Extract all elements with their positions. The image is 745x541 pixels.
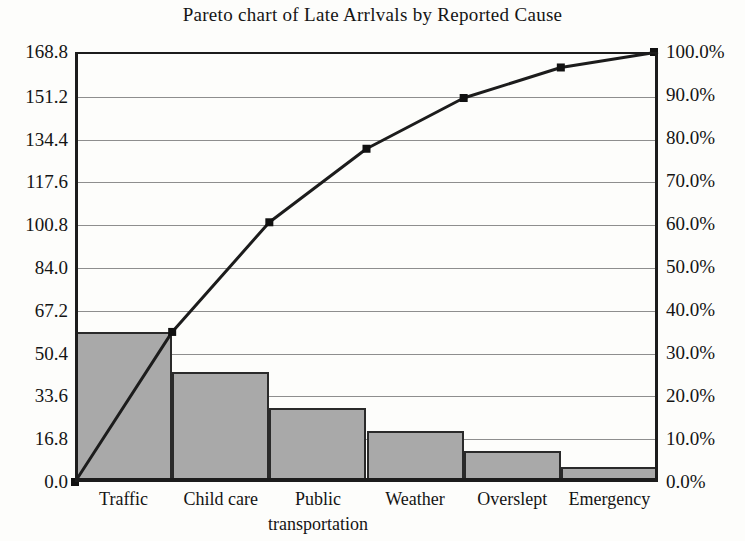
- right-axis-tick-label: 40.0%: [666, 300, 715, 319]
- category-label-line: transportation: [259, 512, 376, 537]
- line-marker: [557, 63, 565, 71]
- right-axis-tick-label: 70.0%: [666, 171, 715, 190]
- right-axis-tick-label: 10.0%: [666, 429, 715, 448]
- right-axis-tick-label: 80.0%: [666, 128, 715, 147]
- left-axis-tick-label: 100.8: [25, 215, 68, 234]
- category-label-line: Traffic: [99, 489, 148, 509]
- cumulative-line-layer: [75, 52, 658, 482]
- line-marker: [265, 218, 273, 226]
- right-axis-tick-label: 90.0%: [666, 85, 715, 104]
- category-label-line: Emergency: [569, 489, 651, 509]
- left-axis-tick-label: 168.8: [25, 42, 68, 61]
- line-marker: [650, 48, 658, 56]
- left-axis: 0.016.833.650.467.284.0100.8117.6134.415…: [0, 52, 68, 482]
- category-label-line: Child care: [183, 489, 257, 509]
- right-axis-tick-label: 0.0%: [666, 472, 706, 491]
- line-marker: [363, 145, 371, 153]
- left-axis-tick-label: 84.0: [35, 258, 68, 277]
- line-marker: [460, 94, 468, 102]
- line-origin-marker: [71, 478, 79, 486]
- pareto-chart: Pareto chart of Late Arrlvals by Reporte…: [0, 0, 745, 541]
- left-axis-tick-label: 33.6: [35, 386, 68, 405]
- category-label-line: Public: [295, 489, 341, 509]
- category-axis: TrafficChild carePublictransportationWea…: [75, 487, 658, 541]
- right-axis: 0.0%10.0%20.0%30.0%40.0%50.0%60.0%70.0%8…: [666, 52, 745, 482]
- left-axis-tick-label: 50.4: [35, 344, 68, 363]
- left-axis-tick-label: 16.8: [35, 429, 68, 448]
- right-axis-tick-label: 20.0%: [666, 386, 715, 405]
- category-label-line: Overslept: [477, 489, 547, 509]
- right-axis-tick-label: 30.0%: [666, 343, 715, 362]
- left-axis-tick-label: 151.2: [25, 87, 68, 106]
- line-marker: [168, 328, 176, 336]
- right-axis-tick-label: 100.0%: [666, 42, 725, 61]
- plot-area: [75, 52, 658, 482]
- category-label-line: Weather: [385, 489, 445, 509]
- right-axis-tick-label: 60.0%: [666, 214, 715, 233]
- left-axis-tick-label: 67.2: [35, 301, 68, 320]
- left-axis-tick-label: 134.4: [25, 130, 68, 149]
- left-axis-tick-label: 117.6: [26, 172, 68, 191]
- chart-title: Pareto chart of Late Arrlvals by Reporte…: [0, 4, 745, 26]
- right-axis-tick-label: 50.0%: [666, 257, 715, 276]
- category-label: Emergency: [551, 487, 668, 512]
- cumulative-line: [75, 52, 658, 482]
